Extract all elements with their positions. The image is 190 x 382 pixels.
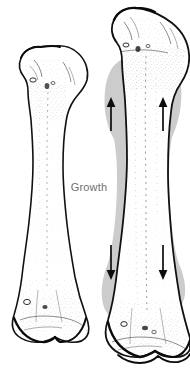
bone-before-growth [12,46,88,342]
bone-growth-figure: Growth [0,0,190,382]
bone-before-stipple [14,58,88,340]
growth-label: Growth [62,181,116,194]
